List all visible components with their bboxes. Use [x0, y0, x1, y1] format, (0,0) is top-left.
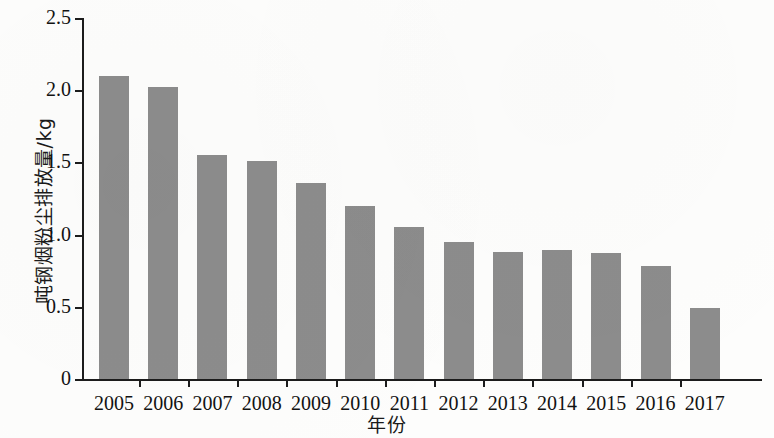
bar [148, 87, 178, 379]
y-axis-tick-label: 0 [61, 367, 71, 390]
plot-area: 00.51.01.52.02.5 20052006200720082009201… [82, 18, 762, 381]
bar [345, 206, 375, 379]
x-axis-line [82, 379, 762, 381]
bar [296, 183, 326, 379]
x-axis-tick-mark [336, 379, 338, 387]
y-axis-tick-label: 2.5 [46, 6, 71, 29]
x-axis-tick-mark [532, 379, 534, 387]
x-axis-tick-mark [631, 379, 633, 387]
y-axis-tick-label: 2.0 [46, 78, 71, 101]
x-axis-tick-mark [188, 379, 190, 387]
x-axis-tick-mark [286, 379, 288, 387]
bar [247, 161, 277, 379]
y-axis-tick-mark [75, 162, 84, 164]
y-axis-tick-label: 1.0 [46, 223, 71, 246]
x-axis-tick-mark [385, 379, 387, 387]
bar [197, 155, 227, 379]
bar [99, 76, 129, 379]
bar [394, 227, 424, 379]
bar [444, 242, 474, 379]
bar [641, 266, 671, 379]
bar [591, 253, 621, 379]
bar [690, 308, 720, 379]
x-axis-tick-mark [434, 379, 436, 387]
x-axis-tick-mark [237, 379, 239, 387]
y-axis-tick-mark [75, 307, 84, 309]
x-axis-title: 年份 [0, 410, 774, 437]
bar-chart: 吨钢烟粉尘排放量/kg 00.51.01.52.02.5 20052006200… [0, 0, 774, 438]
bar [493, 252, 523, 379]
x-axis-tick-mark [582, 379, 584, 387]
x-axis-tick-mark [680, 379, 682, 387]
y-axis-tick-mark [75, 90, 84, 92]
y-axis-tick-mark [75, 379, 84, 381]
x-axis-tick-mark [483, 379, 485, 387]
y-axis-tick-mark [75, 18, 84, 20]
x-axis-tick-mark [139, 379, 141, 387]
bar [542, 250, 572, 379]
y-axis-line [82, 18, 84, 381]
y-axis-tick-mark [75, 235, 84, 237]
y-axis-tick-label: 0.5 [46, 295, 71, 318]
y-axis-tick-label: 1.5 [46, 150, 71, 173]
